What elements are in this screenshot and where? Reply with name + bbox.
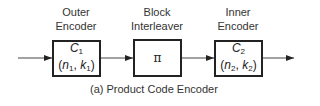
code-params: (n1, k1)	[58, 58, 94, 76]
code-params: (n2, k2)	[220, 58, 256, 76]
pi-symbol: π	[154, 51, 162, 65]
code-symbol: C1	[70, 42, 83, 58]
inner-encoder-label: Inner Encoder	[208, 5, 268, 33]
outer-encoder-label: Outer Encoder	[46, 5, 106, 33]
interleaver-block: π	[133, 39, 182, 77]
code-symbol: C2	[232, 42, 245, 58]
inner-encoder-block: C2 (n2, k2)	[214, 40, 263, 77]
figure-caption: (a) Product Code Encoder	[90, 83, 218, 95]
outer-encoder-block: C1 (n1, k1)	[52, 40, 101, 77]
block-interleaver-label: Block Interleaver	[122, 5, 192, 33]
